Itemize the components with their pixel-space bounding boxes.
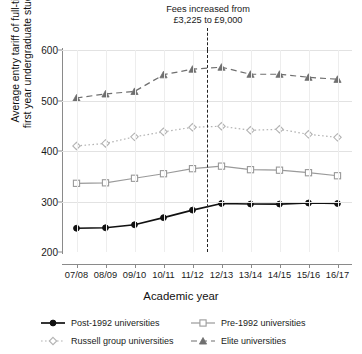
legend-item-pre-1992-universities[interactable]: Pre-1992 universities [190, 317, 340, 329]
x-axis-tick-label: 11/12 [181, 270, 204, 280]
x-gridline [135, 50, 136, 252]
legend-item-label: Post-1992 universities [71, 318, 160, 328]
legend-item-label: Pre-1992 universities [221, 318, 306, 328]
x-axis-tick-mark [251, 264, 252, 268]
x-axis-title: Academic year [0, 290, 362, 302]
legend-key-icon [40, 335, 66, 347]
legend-item-elite-universities[interactable]: Elite universities [190, 335, 340, 347]
y-axis-tick-label: 600 [41, 45, 58, 56]
plot-area: 200300400500600 [62, 50, 352, 252]
x-gridline [280, 50, 281, 252]
x-axis-tick-label: 10/11 [152, 270, 175, 280]
x-axis-tick-mark [164, 264, 165, 268]
legend-item-russell-group-universities[interactable]: Russell group universities [40, 335, 190, 347]
legend-key-icon [190, 317, 216, 329]
x-gridline [222, 50, 223, 252]
x-axis-tick-mark [77, 264, 78, 268]
y-axis-tick-mark [58, 252, 62, 253]
x-axis-tick-mark [309, 264, 310, 268]
fee-increase-marker-line [207, 50, 208, 252]
y-axis-tick-label: 400 [41, 146, 58, 157]
chart-legend: Post-1992 universitiesPre-1992 universit… [40, 314, 340, 350]
x-axis-tick-label: 12/13 [210, 270, 233, 280]
legend-key-icon [40, 317, 66, 329]
x-axis-tick-label: 07/08 [65, 270, 88, 280]
x-gridline [309, 50, 310, 252]
y-axis-title: Average entry tariff of full-time, first… [10, 0, 34, 166]
x-axis-tick-label: 16/17 [326, 270, 349, 280]
y-axis-tick-label: 500 [41, 95, 58, 106]
x-axis-tick-label: 13/14 [239, 270, 262, 280]
fee-increase-annotation: Fees increased from £3,225 to £9,000 [142, 4, 274, 26]
y-axis-tick-mark [58, 151, 62, 152]
x-gridline [338, 50, 339, 252]
x-gridline [164, 50, 165, 252]
y-axis-tick-label: 200 [41, 247, 58, 258]
x-gridline [77, 50, 78, 252]
x-axis-tick-label: 14/15 [268, 270, 291, 280]
x-axis-tick-mark [222, 264, 223, 268]
x-axis-tick-label: 15/16 [297, 270, 320, 280]
x-axis-tick-mark [338, 264, 339, 268]
legend-item-post-1992-universities[interactable]: Post-1992 universities [40, 317, 190, 329]
chart-container: Fees increased from £3,225 to £9,000 Ave… [0, 0, 362, 354]
x-gridline [106, 50, 107, 252]
x-axis-tick-mark [135, 264, 136, 268]
y-axis-tick-mark [58, 50, 62, 51]
y-axis-tick-mark [58, 201, 62, 202]
legend-item-label: Russell group universities [71, 336, 174, 346]
x-axis-tick-label: 09/10 [123, 270, 146, 280]
x-axis-tick-mark [193, 264, 194, 268]
x-axis-tick-mark [280, 264, 281, 268]
fee-increase-marker-line-top [207, 28, 208, 50]
y-axis-tick-label: 300 [41, 196, 58, 207]
x-axis-tick-mark [106, 264, 107, 268]
legend-key-icon [190, 335, 216, 347]
legend-item-label: Elite universities [221, 336, 286, 346]
x-gridline [251, 50, 252, 252]
x-gridline [193, 50, 194, 252]
x-axis-tick-label: 08/09 [94, 270, 117, 280]
y-axis-tick-mark [58, 100, 62, 101]
